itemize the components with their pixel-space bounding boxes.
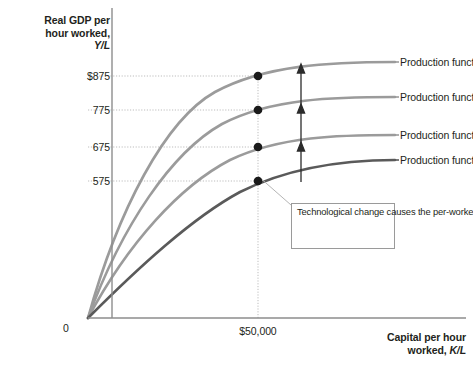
x-tick-label-50000: $50,000 (215, 325, 301, 337)
curve-label-text-4: Production function (400, 56, 473, 68)
x-axis-title-symbol: K/L (449, 344, 466, 356)
y-axis-title-main: Real GDP per hour worked, (44, 14, 110, 39)
y-tick-label-675: 675 (18, 141, 110, 153)
data-point-pf1 (254, 177, 263, 186)
curve-label-text-1: Production function (400, 154, 473, 166)
curve-label-production-function-1: Production function1 (400, 154, 472, 172)
callout-leader-line (258, 176, 291, 205)
shift-arrow-1 (297, 142, 304, 182)
origin-label: 0 (63, 322, 69, 334)
y-axis-title-symbol: Y/L (94, 39, 110, 51)
y-tick-label-775: 775 (18, 104, 110, 116)
curve-label-text-2: Production function (400, 129, 473, 141)
data-point-pf3 (254, 106, 263, 115)
annotation-callout-text: Technological change causes the per-work… (297, 206, 393, 217)
chart-canvas: Real GDP per hour worked,Y/L Capital per… (0, 0, 473, 367)
curve-label-production-function-4: Production function4 (400, 56, 472, 74)
data-point-pf4 (254, 72, 263, 81)
x-axis-title: Capital per hour worked, K/L (350, 331, 466, 356)
curve-label-production-function-3: Production function3 (400, 91, 472, 109)
curve-label-production-function-2: Production function2 (400, 129, 472, 147)
y-tick-label-875: $875 (18, 70, 110, 82)
data-point-pf2 (254, 143, 263, 152)
curve-label-text-3: Production function (400, 91, 473, 103)
y-tick-label-575: 575 (18, 175, 110, 187)
y-axis-title: Real GDP per hour worked,Y/L (18, 14, 110, 52)
